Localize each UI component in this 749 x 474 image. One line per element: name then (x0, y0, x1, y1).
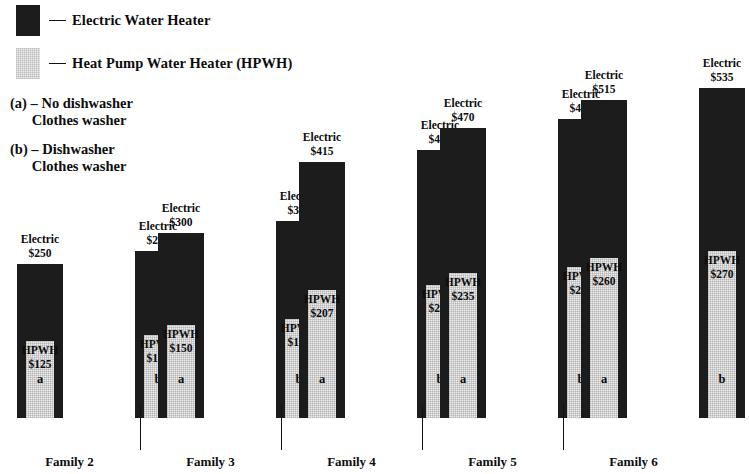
bar-label-electric-value: $515 (571, 83, 637, 97)
bar-label-electric: Electric$470 (430, 97, 496, 124)
bar-label-electric-name: Electric (430, 97, 496, 111)
bar-label-electric-value: $300 (148, 216, 214, 230)
bar-label-electric-value: $250 (7, 247, 73, 261)
tick-label-a: a (299, 372, 345, 387)
bar-label-electric-value: $535 (689, 71, 749, 85)
bar-label-hpwh: HPWH$260 (575, 261, 633, 288)
bar-label-hpwh: HPWH$207 (293, 293, 351, 320)
bar-label-hpwh-name: HPWH (434, 276, 492, 290)
bar-label-hpwh: HPWH$125 (11, 344, 69, 371)
bar-label-hpwh-value: $270 (693, 268, 749, 282)
bar-label-hpwh-value: $207 (293, 307, 351, 321)
group-label: Family 6 (581, 454, 686, 470)
bar-label-electric-name: Electric (571, 69, 637, 83)
bar-label-hpwh-name: HPWH (693, 254, 749, 268)
bar-label-electric-name: Electric (148, 202, 214, 216)
bar-label-electric: Electric$515 (571, 69, 637, 96)
bar-label-electric-name: Electric (689, 57, 749, 71)
group-separator (563, 405, 564, 450)
bar-label-hpwh-name: HPWH (152, 328, 210, 342)
tick-label-a: a (581, 372, 627, 387)
bar-label-hpwh-name: HPWH (11, 344, 69, 358)
bar-label-electric: Electric$250 (7, 233, 73, 260)
bar-label-electric: Electric$300 (148, 202, 214, 229)
tick-label-a: a (17, 372, 63, 387)
bar-label-hpwh-value: $150 (152, 342, 210, 356)
bar-label-hpwh-value: $125 (11, 358, 69, 372)
group-separator (422, 405, 423, 450)
tick-label-b: b (699, 372, 745, 387)
bar-label-electric-value: $470 (430, 111, 496, 125)
bar-label-hpwh: HPWH$235 (434, 276, 492, 303)
group-label: Family 5 (440, 454, 545, 470)
tick-label-a: a (158, 372, 204, 387)
bar-label-electric: Electric$415 (289, 131, 355, 158)
group-separator (281, 405, 282, 450)
bar-label-electric-value: $415 (289, 145, 355, 159)
bar-label-hpwh: HPWH$270 (693, 254, 749, 281)
bar-label-electric: Electric$535 (689, 57, 749, 84)
group-label: Family 3 (158, 454, 263, 470)
bar-label-electric-name: Electric (7, 233, 73, 247)
group-label: Family 2 (17, 454, 122, 470)
group-label: Family 4 (299, 454, 404, 470)
bar-label-hpwh-value: $235 (434, 290, 492, 304)
bar-label-hpwh-name: HPWH (575, 261, 633, 275)
bar-label-electric-name: Electric (289, 131, 355, 145)
group-separator (140, 405, 141, 450)
bar-label-hpwh-name: HPWH (293, 293, 351, 307)
tick-label-a: a (440, 372, 486, 387)
bar-label-hpwh: HPWH$150 (152, 328, 210, 355)
bar-label-hpwh-value: $260 (575, 275, 633, 289)
